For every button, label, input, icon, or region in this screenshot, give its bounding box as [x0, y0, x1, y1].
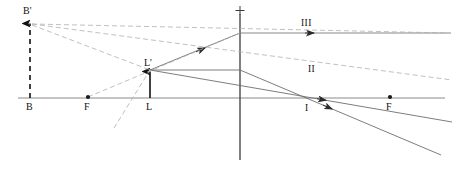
label-F-left: F: [84, 101, 90, 112]
ray-one-refracted-arrowhead: [323, 105, 332, 109]
label-B: B: [26, 101, 33, 112]
lens-plus-icon: [236, 6, 245, 15]
focal-point-right-dot: [388, 95, 392, 99]
label-ray-two: II: [308, 64, 315, 74]
construction-line-through-F-left: [88, 33, 240, 97]
construction-line-to-B-prime-mid: [32, 24, 452, 80]
ray-one-refracted: [240, 70, 441, 155]
ray-one-incident: [150, 33, 240, 70]
label-ray-three: III: [301, 18, 312, 28]
ray-two-arrowhead: [317, 99, 326, 101]
label-B-prime: B': [23, 5, 32, 16]
construction-line-lower-left: [114, 70, 150, 128]
label-L-prime: L': [144, 57, 152, 68]
optics-ray-diagram: B' B F L L' F III II I: [0, 0, 476, 174]
optics-diagram-canvas: B' B F L L' F III II I: [0, 0, 476, 174]
focal-point-left-dot: [86, 95, 90, 99]
label-L-object: L: [146, 101, 152, 112]
label-ray-one: I: [305, 103, 309, 113]
label-F-right: F: [386, 101, 392, 112]
